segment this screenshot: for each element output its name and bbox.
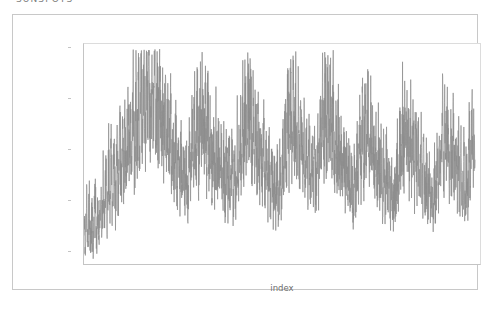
page-title: SUNSPOTS [16, 0, 73, 4]
plot-area [83, 43, 481, 265]
sunspots-line-series [84, 44, 480, 264]
figure-frame: 020406080 19801990200020102020 index [12, 14, 478, 290]
x-axis-label: index [270, 283, 293, 293]
